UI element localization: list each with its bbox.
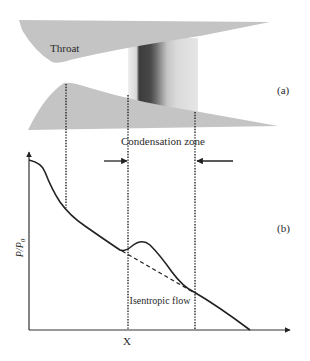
panel-b-label: (b) <box>277 222 290 235</box>
y-axis-label: P/P0 <box>14 238 27 258</box>
pressure-plot-panel-b: Condensation zone Isentropic flow (b) X … <box>14 135 290 347</box>
throat-label: Throat <box>50 42 79 54</box>
condensation-zone-label: Condensation zone <box>121 135 205 147</box>
isentropic-flow-label: Isentropic flow <box>130 295 192 306</box>
panel-a-label: (a) <box>277 84 290 97</box>
nozzle-panel-a: Throat (a) <box>19 20 290 130</box>
x-axis-label: X <box>123 335 131 347</box>
nozzle-condensation-diagram: Throat (a) Condensation zone Isentropic … <box>0 0 310 361</box>
isentropic-dashed-line <box>122 251 193 292</box>
svg-text:P/P0: P/P0 <box>14 238 27 258</box>
